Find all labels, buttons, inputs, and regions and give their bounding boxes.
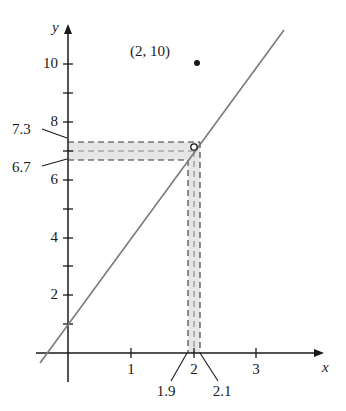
x-band-upper-label: 2.1 <box>213 383 232 399</box>
y-axis-arrow-icon <box>64 24 72 34</box>
x-axis-arrow-icon <box>314 349 324 357</box>
svg-text:10: 10 <box>43 55 58 71</box>
svg-text:1: 1 <box>127 361 135 377</box>
x-band-lower-label: 1.9 <box>157 383 176 399</box>
axes <box>36 30 318 382</box>
svg-text:2: 2 <box>190 361 198 377</box>
svg-text:3: 3 <box>252 361 260 377</box>
svg-text:8: 8 <box>51 113 59 129</box>
open-point <box>191 144 197 150</box>
line-series <box>40 30 284 363</box>
svg-text:4: 4 <box>51 229 59 245</box>
limit-graph: 2 4 6 8 10 1 2 3 y x (2, 10) 7.3 6.7 1.9… <box>0 0 346 411</box>
y-band-upper-label: 7.3 <box>12 121 31 137</box>
y-band-lower-label: 6.7 <box>12 159 31 175</box>
svg-text:6: 6 <box>51 171 59 187</box>
x-axis-label: x <box>321 359 329 375</box>
y-tick-labels: 2 4 6 8 10 <box>43 55 59 302</box>
svg-text:2: 2 <box>51 286 59 302</box>
y-axis-label: y <box>50 19 59 35</box>
point-label: (2, 10) <box>130 43 170 60</box>
filled-point <box>194 60 200 66</box>
x-tick-labels: 1 2 3 <box>127 361 260 377</box>
